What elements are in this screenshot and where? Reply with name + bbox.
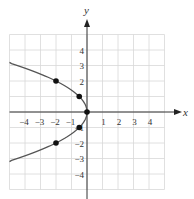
svg-text:−3: −3 [35, 117, 45, 127]
data-point [53, 78, 59, 84]
parabola-chart: −4−3−2−11234432−1−2−3−4 x y [0, 0, 194, 199]
axes [10, 19, 183, 199]
data-point [76, 94, 82, 100]
svg-text:−4: −4 [19, 117, 29, 127]
x-axis-label: x [182, 106, 188, 118]
svg-text:−2: −2 [50, 117, 60, 127]
svg-text:−3: −3 [74, 154, 84, 164]
svg-text:1: 1 [101, 117, 106, 127]
svg-text:2: 2 [80, 77, 85, 87]
svg-text:4: 4 [148, 117, 153, 127]
svg-text:3: 3 [132, 117, 137, 127]
svg-text:3: 3 [80, 61, 85, 71]
svg-text:2: 2 [117, 117, 122, 127]
svg-text:4: 4 [80, 46, 85, 56]
svg-text:−4: −4 [74, 170, 84, 180]
y-axis-label: y [83, 4, 89, 16]
svg-text:−2: −2 [74, 139, 84, 149]
data-point [53, 140, 59, 146]
data-point [76, 125, 82, 131]
data-point [84, 109, 90, 115]
